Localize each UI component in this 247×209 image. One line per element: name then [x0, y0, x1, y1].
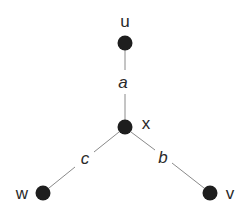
edge-label-b: b — [158, 148, 167, 167]
node-x — [118, 120, 133, 135]
nodes — [36, 36, 218, 201]
node-label-w: w — [15, 184, 29, 203]
edge-c-lower — [49, 167, 75, 188]
edges — [49, 50, 204, 188]
edge-label-a: a — [118, 73, 127, 92]
node-v — [203, 186, 218, 201]
edge-b-lower — [172, 163, 204, 188]
edge-label-c: c — [81, 149, 90, 168]
node-label-v: v — [226, 184, 235, 203]
node-label-x: x — [142, 114, 151, 133]
node-w — [36, 186, 51, 201]
node-label-u: u — [120, 12, 129, 31]
graph-diagram: u x w v a b c — [0, 0, 247, 209]
edge-b-upper — [131, 132, 155, 150]
edge-c-upper — [94, 132, 119, 152]
node-u — [118, 36, 133, 51]
